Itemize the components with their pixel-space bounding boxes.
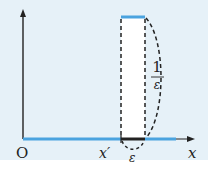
height-numerator: 1 [152, 58, 162, 76]
width-brace [122, 141, 144, 149]
origin-label: O [16, 144, 28, 162]
height-denominator: ε [154, 78, 160, 92]
x-axis-arrow-icon [187, 136, 195, 142]
pulse-start-label: x′ [99, 145, 111, 161]
y-axis-arrow-icon [20, 9, 26, 17]
x-axis-label: x [188, 144, 197, 162]
pulse-diagram: 1 ε O x′ ε x [0, 0, 208, 177]
pulse-rect [121, 17, 145, 139]
width-label: ε [129, 151, 135, 165]
